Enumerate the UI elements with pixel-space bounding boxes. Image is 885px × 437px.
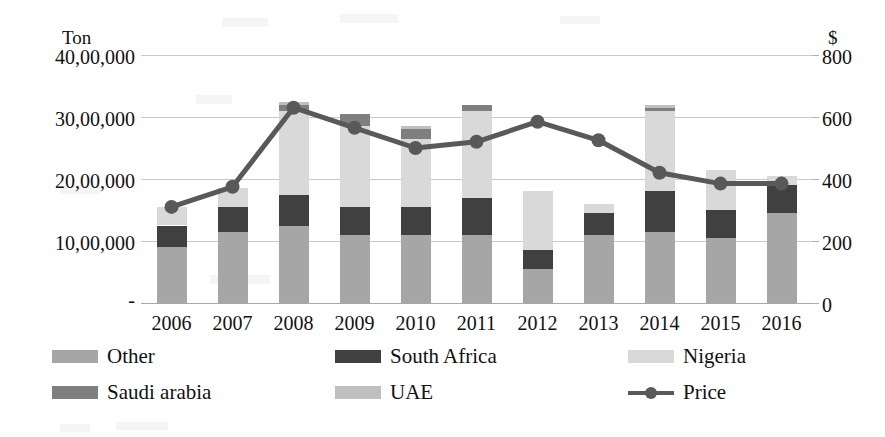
legend-label: Nigeria xyxy=(683,345,746,367)
chart-container: Ton $ 40,00,000 30,00,000 20,00,000 10,0… xyxy=(0,0,885,437)
y2tick-label-600: 600 xyxy=(822,109,885,129)
bar-segment-other xyxy=(767,213,797,303)
legend-swatch-icon xyxy=(52,386,98,399)
y2tick-label-800: 800 xyxy=(822,47,885,67)
legend-label: UAE xyxy=(390,381,433,403)
bar-segment-uae xyxy=(401,126,431,129)
scan-artifact xyxy=(116,422,168,430)
bar-segment-other xyxy=(279,226,309,304)
ytick-label-30-lakh: 30,00,000 xyxy=(5,109,135,129)
legend-item-other[interactable]: Other xyxy=(52,343,155,369)
y2tick-label-0: 0 xyxy=(822,295,885,315)
bar-segment-south-africa xyxy=(157,226,187,248)
bar-segment-nigeria xyxy=(401,139,431,207)
bar-segment-other xyxy=(523,269,553,303)
xtick-label-2016: 2016 xyxy=(752,312,812,334)
bar-segment-nigeria xyxy=(279,111,309,195)
tickmark-0 xyxy=(812,303,819,304)
tickmark-800 xyxy=(812,55,819,56)
bar-segment-other xyxy=(462,235,492,303)
bar-2014[interactable] xyxy=(645,105,675,303)
bar-segment-south-africa xyxy=(279,195,309,226)
bar-segment-nigeria xyxy=(462,111,492,198)
bar-segment-saudi-arabia xyxy=(279,105,309,111)
tickmark-400 xyxy=(812,179,819,180)
legend-label: Saudi arabia xyxy=(107,381,211,403)
bar-segment-nigeria xyxy=(523,191,553,250)
bar-segment-other xyxy=(706,238,736,303)
legend-line-marker-icon xyxy=(628,386,674,399)
bar-2010[interactable] xyxy=(401,126,431,303)
right-axis-unit: $ xyxy=(828,28,838,47)
bar-segment-uae xyxy=(645,105,675,108)
xtick-label-2012: 2012 xyxy=(508,312,568,334)
ytick-label-40-lakh: 40,00,000 xyxy=(5,47,135,67)
legend-item-uae[interactable]: UAE xyxy=(335,379,433,405)
tickmark-600 xyxy=(812,117,819,118)
legend-item-nigeria[interactable]: Nigeria xyxy=(628,343,746,369)
bar-2006[interactable] xyxy=(157,207,187,303)
bar-segment-nigeria xyxy=(218,188,248,207)
bar-segment-south-africa xyxy=(340,207,370,235)
xtick-label-2010: 2010 xyxy=(386,312,446,334)
ytick-label-20-lakh: 20,00,000 xyxy=(5,171,135,191)
legend-swatch-icon xyxy=(335,350,381,363)
legend-label: South Africa xyxy=(390,345,497,367)
xtick-label-2008: 2008 xyxy=(264,312,324,334)
legend-label: Other xyxy=(107,345,155,367)
bar-segment-other xyxy=(340,235,370,303)
ytick-label-10-lakh: 10,00,000 xyxy=(5,233,135,253)
bar-segment-other xyxy=(157,247,187,303)
bar-2009[interactable] xyxy=(340,114,370,303)
legend-swatch-icon xyxy=(628,350,674,363)
axis-baseline xyxy=(141,303,812,304)
chart-legend: OtherSouth AfricaNigeriaSaudi arabiaUAEP… xyxy=(52,343,842,423)
scan-artifact xyxy=(196,95,232,104)
legend-item-south-africa[interactable]: South Africa xyxy=(335,343,497,369)
y2tick-label-400: 400 xyxy=(822,171,885,191)
bar-segment-nigeria xyxy=(157,207,187,226)
bar-2012[interactable] xyxy=(523,191,553,303)
bar-segment-other xyxy=(401,235,431,303)
bar-2015[interactable] xyxy=(706,170,736,303)
xtick-label-2015: 2015 xyxy=(691,312,751,334)
legend-item-price[interactable]: Price xyxy=(628,379,726,405)
bar-2008[interactable] xyxy=(279,102,309,304)
bar-segment-nigeria xyxy=(767,176,797,185)
ytick-label-zero: - xyxy=(5,290,135,310)
bar-segment-south-africa xyxy=(767,185,797,213)
bar-segment-south-africa xyxy=(218,207,248,232)
bar-segment-south-africa xyxy=(523,250,553,269)
bar-segment-south-africa xyxy=(645,191,675,231)
bar-segment-south-africa xyxy=(706,210,736,238)
xtick-label-2009: 2009 xyxy=(325,312,385,334)
legend-label: Price xyxy=(683,381,726,403)
scan-artifact xyxy=(560,16,600,24)
xtick-label-2007: 2007 xyxy=(203,312,263,334)
bar-2016[interactable] xyxy=(767,176,797,303)
xtick-label-2013: 2013 xyxy=(569,312,629,334)
tickmark-200 xyxy=(812,241,819,242)
bar-2007[interactable] xyxy=(218,188,248,303)
bar-segment-other xyxy=(645,232,675,303)
bar-segment-south-africa xyxy=(462,198,492,235)
bar-2011[interactable] xyxy=(462,105,492,303)
bar-segment-nigeria xyxy=(645,111,675,192)
bar-segment-south-africa xyxy=(401,207,431,235)
scan-artifact xyxy=(222,18,268,27)
scan-artifact xyxy=(60,424,90,432)
price-point-2013[interactable] xyxy=(592,133,606,147)
legend-item-saudi-arabia[interactable]: Saudi arabia xyxy=(52,379,211,405)
bar-segment-saudi-arabia xyxy=(401,129,431,138)
bar-segment-saudi-arabia xyxy=(462,105,492,111)
bar-segment-saudi-arabia xyxy=(340,114,370,126)
bar-segment-nigeria xyxy=(340,126,370,207)
xtick-label-2014: 2014 xyxy=(630,312,690,334)
gridline-4000000 xyxy=(141,55,812,56)
legend-swatch-icon xyxy=(52,350,98,363)
bar-segment-nigeria xyxy=(584,204,614,213)
bar-2013[interactable] xyxy=(584,204,614,303)
scan-artifact xyxy=(340,14,398,23)
left-axis-unit: Ton xyxy=(62,28,91,47)
legend-swatch-icon xyxy=(335,386,381,399)
